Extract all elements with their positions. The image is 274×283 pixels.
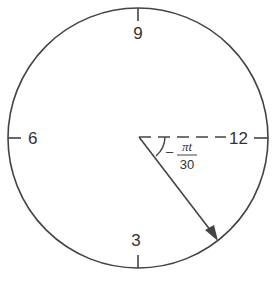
clock-hand (139, 137, 214, 235)
angle-sign: – (166, 144, 174, 159)
label-9: 9 (133, 24, 142, 43)
label-3: 3 (131, 231, 140, 250)
clock-diagram: 9 6 3 12 – πt 30 (0, 0, 274, 283)
label-6: 6 (28, 129, 37, 148)
angle-numerator: πt (182, 139, 193, 154)
angle-arc (156, 137, 165, 156)
arrow-head-icon (205, 225, 218, 241)
label-12: 12 (229, 129, 248, 148)
angle-denominator: 30 (180, 157, 194, 172)
